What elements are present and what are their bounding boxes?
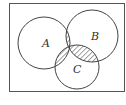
label-a: A (41, 37, 50, 50)
label-b: B (90, 30, 99, 43)
label-c: C (73, 63, 82, 76)
venn-diagram: A B C (0, 0, 126, 105)
